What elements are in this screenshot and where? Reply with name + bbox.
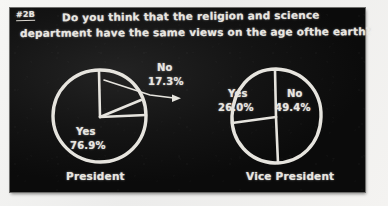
pie-vice-president-no-value: 49.4%: [275, 102, 311, 113]
pie-vice-president-radius-left: [232, 117, 276, 123]
pie-president-no-value: 17.3%: [148, 76, 184, 87]
question-text-line-2: department have the same views on the ag…: [20, 25, 372, 39]
pie-president-no-label: No: [157, 62, 173, 73]
pie-vice-president-svg: [226, 62, 336, 172]
pie-president-yes-label: Yes: [76, 126, 96, 137]
chalkboard-pie-chart-photo: #2B Do you think that the religion and s…: [0, 0, 388, 206]
question-number-label: #2B: [16, 10, 35, 21]
pie-vice-president-radius-bottom: [276, 117, 278, 163]
pie-president-svg: [46, 62, 226, 172]
pie-president-leader-arrowhead: [172, 95, 181, 103]
pie-chart-president: [46, 62, 226, 172]
caption-president: President: [66, 170, 125, 182]
pie-vice-president-yes-label: Yes: [228, 88, 248, 99]
pie-president-radius-top: [99, 71, 100, 117]
caption-vice-president: Vice President: [246, 170, 334, 182]
pie-vice-president-no-label: No: [287, 88, 303, 99]
pie-chart-vice-president: [226, 62, 336, 172]
pie-president-yes-value: 76.9%: [70, 140, 106, 151]
pie-vice-president-yes-value: 26.0%: [218, 102, 254, 113]
